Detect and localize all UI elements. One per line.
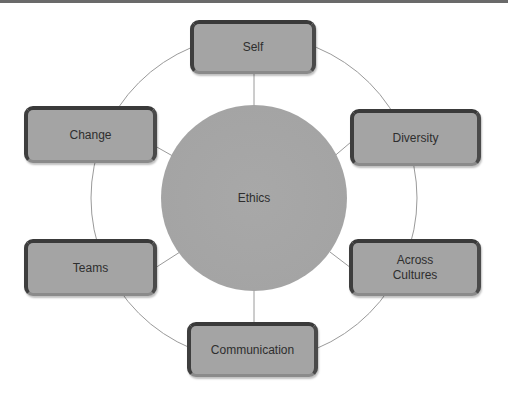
spoke-teams — [155, 252, 180, 268]
node-label: Across Cultures — [393, 253, 438, 283]
node-teams: Teams — [24, 239, 157, 296]
node-self: Self — [190, 20, 316, 74]
center-label: Ethics — [238, 191, 271, 205]
node-label: Diversity — [392, 131, 438, 146]
node-label: Teams — [73, 261, 108, 276]
spoke-across-cultures — [330, 252, 351, 268]
node-label: Change — [69, 128, 111, 143]
node-label: Self — [243, 40, 264, 55]
node-label: Communication — [211, 343, 294, 358]
node-diversity: Diversity — [350, 109, 481, 166]
node-across-cultures: Across Cultures — [349, 239, 481, 296]
node-change: Change — [24, 106, 157, 163]
center-node-ethics: Ethics — [161, 105, 347, 291]
node-communication: Communication — [187, 322, 318, 377]
